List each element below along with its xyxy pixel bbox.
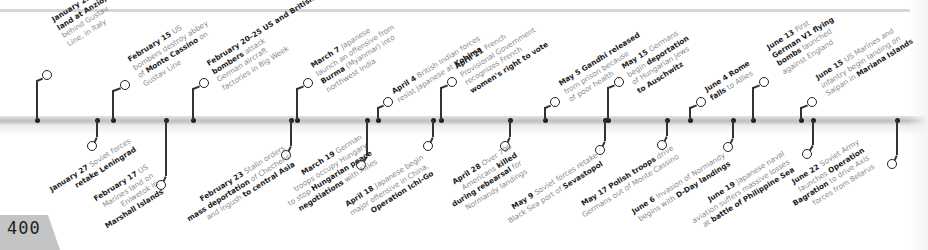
connector-line <box>432 120 434 137</box>
connector-line <box>604 120 606 141</box>
connector-line <box>689 107 691 120</box>
top-rule <box>0 9 910 12</box>
event-ring-marker <box>696 97 706 107</box>
connector-line <box>812 120 814 145</box>
connector-line <box>112 90 114 120</box>
event-ring-marker <box>199 78 209 88</box>
connector-line <box>290 120 292 146</box>
connector-line <box>800 107 802 120</box>
page-edge <box>908 0 928 250</box>
event-ring-marker <box>423 141 433 151</box>
connector-line <box>192 88 194 120</box>
event-label: January 22 Allied forcesland at Anzio,be… <box>50 0 148 49</box>
event-label: June 4 Romefalls to Allies <box>703 59 757 103</box>
timeline-band <box>0 116 928 125</box>
event-ring-marker <box>614 77 624 87</box>
connector-line <box>165 120 167 176</box>
timeline-band-shadow <box>0 125 928 135</box>
connector-line <box>752 87 754 120</box>
event-ring-marker <box>807 97 817 107</box>
connector-line <box>377 107 379 120</box>
event-label: April 21 FrenchProvisional Governmentrec… <box>453 15 550 95</box>
event-ring-marker <box>383 97 393 107</box>
event-ring-marker <box>723 142 733 152</box>
event-ring-marker <box>759 77 769 87</box>
event-label: February 15 USbombers destroy abbeyof Mo… <box>126 10 220 88</box>
event-label: June 22 Soviet Armylaunches OperationBag… <box>781 137 876 216</box>
event-ring-marker <box>802 149 812 159</box>
event-ring-marker <box>550 97 560 107</box>
event-ring-marker <box>42 70 52 80</box>
connector-line <box>113 87 121 91</box>
event-label: February 20–25 US and Britishbombers att… <box>205 0 331 93</box>
event-ring-marker <box>887 159 897 169</box>
event-ring-marker <box>303 78 313 88</box>
event-ring-marker <box>120 80 130 90</box>
connector-line <box>440 87 442 120</box>
connector-line <box>509 120 511 137</box>
event-label-line: mass deportation of Chechens <box>185 152 292 224</box>
event-ring-marker <box>87 141 97 151</box>
connector-line <box>296 88 298 120</box>
connector-line <box>96 120 98 137</box>
page-number: 400 <box>7 218 41 238</box>
event-ring-marker <box>447 77 457 87</box>
connector-line <box>732 120 734 138</box>
connector-line <box>896 120 898 155</box>
connector-line <box>666 120 668 136</box>
connector-line <box>607 87 609 120</box>
connector-line <box>36 80 38 120</box>
connector-line <box>544 107 546 120</box>
